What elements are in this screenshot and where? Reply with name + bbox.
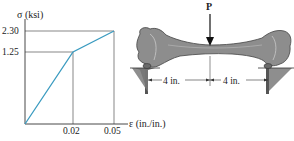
x-tick-0-05: 0.05 [104,126,121,136]
bone-diagram: P 4 in. 4 in. [130,1,294,94]
load-label: P [206,1,212,12]
stress-strain-curve [25,31,114,124]
dim-right-label: 4 in. [223,76,240,86]
x-tick-0-02: 0.02 [63,126,80,136]
y-axis-label: σ (ksi) [17,9,43,21]
bone-shape [137,28,291,68]
y-tick-1-25: 1.25 [2,47,19,57]
right-support [258,68,294,94]
left-support [130,68,160,94]
dim-left-label: 4 in. [163,76,180,86]
y-tick-2-30: 2.30 [2,26,19,36]
x-axis-label: ε (in./in.) [129,118,166,130]
figure: σ (ksi) 2.30 1.25 0.02 0.05 ε (in./in.) [0,0,294,141]
dimension-line: 4 in. 4 in. [148,76,268,86]
load-arrow-p: P [206,1,214,46]
